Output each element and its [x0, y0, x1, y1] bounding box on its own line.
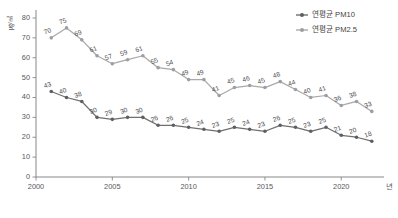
- legend-label: 연평균 PM2.5: [312, 24, 357, 34]
- data-label: 30: [119, 106, 129, 115]
- data-point: [217, 129, 221, 133]
- data-point: [248, 127, 252, 131]
- data-label: 44: [287, 78, 297, 87]
- data-point: [49, 90, 53, 94]
- data-point: [187, 126, 191, 130]
- series-line-pm25: [51, 28, 372, 111]
- data-point: [324, 94, 328, 98]
- data-point: [278, 124, 282, 128]
- data-label: 26: [165, 114, 175, 123]
- legend-swatch-marker: [300, 13, 304, 17]
- data-point: [202, 78, 206, 82]
- data-point: [339, 133, 343, 137]
- data-label: 23: [302, 120, 312, 129]
- x-tick-label: 2005: [104, 182, 120, 191]
- data-label: 20: [348, 126, 358, 135]
- data-point: [172, 124, 176, 128]
- data-label: 24: [195, 118, 205, 127]
- data-label: 48: [272, 70, 282, 79]
- data-point: [65, 26, 69, 30]
- data-label: 40: [302, 86, 312, 95]
- data-point: [370, 110, 374, 114]
- data-point: [172, 68, 176, 72]
- x-tick-label: 2020: [333, 182, 349, 191]
- data-point: [187, 78, 191, 82]
- data-point: [141, 116, 145, 120]
- data-label: 36: [333, 94, 343, 103]
- data-point: [355, 100, 359, 104]
- data-point: [80, 100, 84, 104]
- data-label: 70: [43, 26, 53, 35]
- y-tick-label: 40: [22, 92, 30, 101]
- legend-swatch-marker: [300, 28, 304, 32]
- data-point: [233, 86, 237, 90]
- data-label: 49: [195, 68, 205, 77]
- data-point: [49, 36, 53, 40]
- chart-container: 0102030405060708020002005201020152020㎍/㎥…: [0, 0, 398, 218]
- data-label: 49: [180, 68, 190, 77]
- data-point: [156, 66, 160, 70]
- data-label: 38: [348, 90, 358, 99]
- line-chart: 0102030405060708020002005201020152020㎍/㎥…: [0, 0, 398, 218]
- y-tick-label: 30: [22, 112, 30, 121]
- data-label: 61: [134, 44, 144, 53]
- data-label: 30: [134, 106, 144, 115]
- data-label: 30: [89, 106, 99, 115]
- data-point: [309, 96, 313, 100]
- data-point: [339, 104, 343, 108]
- data-label: 25: [180, 116, 190, 125]
- data-label: 45: [256, 76, 266, 85]
- y-tick-label: 70: [22, 33, 30, 42]
- data-point: [217, 94, 221, 98]
- data-label: 40: [58, 86, 68, 95]
- data-label: 23: [256, 120, 266, 129]
- data-point: [156, 124, 160, 128]
- y-tick-label: 10: [22, 152, 30, 161]
- legend-label: 연평균 PM10: [312, 9, 355, 19]
- data-point: [80, 38, 84, 42]
- data-label: 61: [89, 44, 99, 53]
- data-label: 18: [363, 130, 373, 139]
- data-point: [248, 84, 252, 88]
- data-point: [294, 126, 298, 130]
- data-point: [278, 80, 282, 84]
- data-point: [95, 54, 99, 58]
- data-point: [95, 116, 99, 120]
- data-point: [126, 116, 130, 120]
- y-tick-label: 20: [22, 132, 30, 141]
- x-tick-label: 2000: [28, 182, 44, 191]
- y-tick-label: 60: [22, 53, 30, 62]
- data-label: 29: [104, 108, 114, 117]
- data-point: [370, 139, 374, 143]
- x-axis-unit-label: 년: [386, 182, 393, 191]
- data-label: 23: [211, 120, 221, 129]
- data-point: [263, 86, 267, 90]
- data-label: 25: [317, 116, 327, 125]
- data-label: 57: [104, 52, 114, 61]
- data-point: [126, 58, 130, 62]
- x-tick-label: 2010: [180, 182, 196, 191]
- data-label: 24: [241, 118, 251, 127]
- data-label: 45: [226, 76, 236, 85]
- data-label: 21: [333, 124, 343, 133]
- data-point: [65, 96, 69, 100]
- data-label: 26: [272, 114, 282, 123]
- data-label: 25: [287, 116, 297, 125]
- data-label: 46: [241, 74, 251, 83]
- data-label: 26: [150, 114, 160, 123]
- data-point: [324, 126, 328, 130]
- y-axis-unit-label: ㎍/㎥: [6, 16, 15, 30]
- x-tick-label: 2015: [257, 182, 273, 191]
- data-label: 33: [363, 100, 373, 109]
- data-point: [355, 135, 359, 139]
- data-label: 54: [165, 58, 175, 67]
- data-point: [309, 129, 313, 133]
- data-point: [111, 62, 115, 66]
- data-label: 59: [119, 48, 129, 57]
- data-label: 75: [58, 16, 68, 25]
- data-point: [263, 129, 267, 133]
- data-label: 38: [73, 90, 83, 99]
- data-point: [294, 88, 298, 92]
- data-label: 55: [150, 56, 160, 65]
- y-tick-label: 0: [26, 172, 30, 181]
